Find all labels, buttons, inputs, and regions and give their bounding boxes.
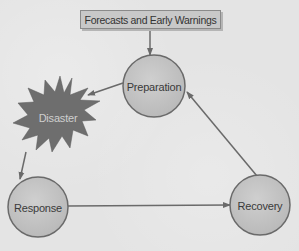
recovery-label: Recovery	[238, 200, 283, 212]
arrow-recovery-to-preparation	[187, 92, 257, 176]
response-label: Response	[14, 202, 62, 214]
disaster-cycle-diagram: Forecasts and Early Warnings Preparation…	[0, 0, 299, 251]
preparation-label: Preparation	[127, 81, 182, 93]
arrow-response-to-recovery	[68, 205, 230, 206]
forecasts-label: Forecasts and Early Warnings	[85, 14, 217, 26]
forecasts-box: Forecasts and Early Warnings	[80, 10, 221, 29]
arrow-disaster-to-response	[20, 152, 26, 179]
arrow-preparation-to-disaster	[88, 83, 123, 95]
disaster-label: Disaster	[39, 112, 78, 124]
